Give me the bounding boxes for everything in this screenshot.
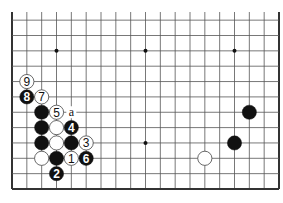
move-number: 7 (38, 90, 45, 104)
black-stone-icon (242, 105, 256, 119)
white-stone: 7 (35, 90, 49, 104)
move-number: 8 (23, 90, 30, 104)
black-stone: 6 (79, 151, 93, 165)
black-stone: 4 (64, 121, 78, 135)
white-stone-icon (35, 151, 49, 165)
star-point-icon (55, 49, 59, 53)
white-stone (49, 136, 63, 150)
white-stone (35, 151, 49, 165)
black-stone (49, 151, 63, 165)
white-stone-icon (49, 136, 63, 150)
black-stone (227, 136, 241, 150)
star-point-icon (144, 49, 148, 53)
move-number: 3 (83, 136, 90, 150)
black-stone-icon (35, 105, 49, 119)
black-stone-icon (64, 136, 78, 150)
move-number: 1 (68, 152, 75, 166)
black-stone (35, 105, 49, 119)
white-stone: 5 (49, 105, 63, 119)
white-stone (198, 151, 212, 165)
star-point-icon (233, 49, 237, 53)
black-stone-icon (49, 151, 63, 165)
point-label: a (69, 105, 75, 119)
white-stone: 1 (64, 151, 78, 165)
black-stone: 2 (49, 167, 63, 181)
white-stone (49, 121, 63, 135)
black-stone (64, 136, 78, 150)
black-stone (35, 121, 49, 135)
white-stone: 9 (20, 74, 34, 88)
go-board-diagram: 123456789 a (0, 0, 283, 203)
black-stone (35, 136, 49, 150)
move-number: 2 (53, 167, 60, 181)
move-number: 6 (83, 152, 90, 166)
markers: a (66, 105, 76, 119)
star-point-icon (144, 141, 148, 145)
black-stone-icon (35, 136, 49, 150)
white-stone-icon (198, 151, 212, 165)
black-stone: 8 (20, 90, 34, 104)
white-stone: 3 (79, 136, 93, 150)
move-number: 9 (23, 75, 30, 89)
black-stone-icon (227, 136, 241, 150)
move-number: 4 (68, 121, 75, 135)
black-stone-icon (35, 121, 49, 135)
white-stone-icon (49, 121, 63, 135)
black-stone (242, 105, 256, 119)
move-number: 5 (53, 106, 60, 120)
